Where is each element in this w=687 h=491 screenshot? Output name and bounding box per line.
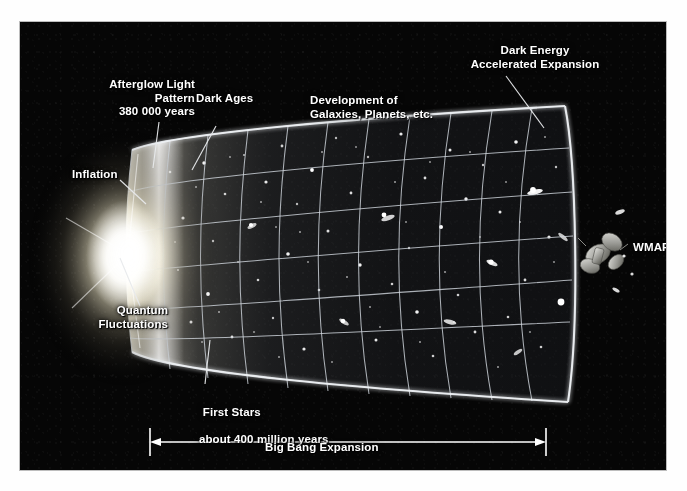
wmap-satellite-icon [578, 229, 628, 276]
label-development-of-galaxies: Development of Galaxies, Planets, etc. [310, 94, 433, 121]
label-first-stars-title: First Stars [203, 406, 261, 418]
big-bang-glow [28, 130, 220, 386]
label-wmap: WMAP [633, 241, 666, 255]
label-afterglow-light-pattern: Afterglow Light Pattern 380 000 years [55, 78, 195, 119]
label-inflation: Inflation [72, 168, 118, 182]
label-dark-energy-accelerated-expansion: Dark Energy Accelerated Expansion [445, 44, 625, 71]
label-first-stars: First Stars about 400 million years [183, 392, 329, 470]
cosmic-timeline-image: Afterglow Light Pattern 380 000 years Da… [20, 22, 666, 470]
label-dark-ages: Dark Ages [196, 92, 253, 106]
label-big-bang-expansion: Big Bang Expansion [265, 441, 379, 455]
figure-canvas: Afterglow Light Pattern 380 000 years Da… [0, 0, 687, 491]
label-quantum-fluctuations: Quantum Fluctuations [48, 304, 168, 331]
